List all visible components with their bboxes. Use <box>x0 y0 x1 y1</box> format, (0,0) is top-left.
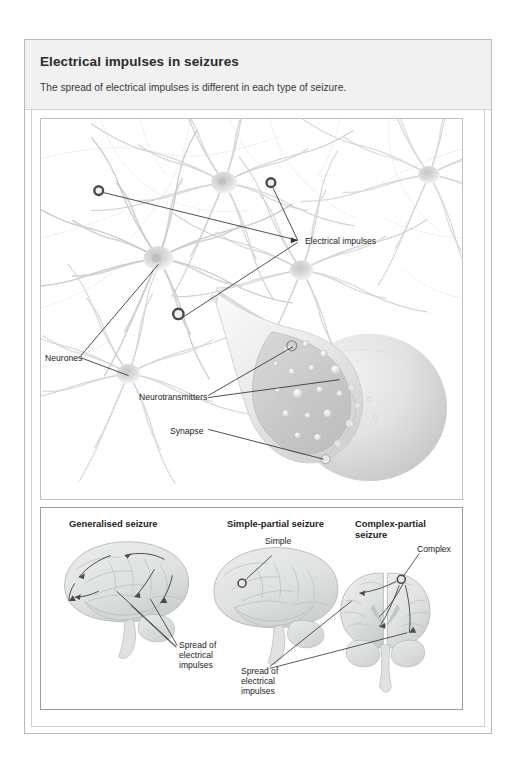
page-root: Electrical impulses in seizures The spre… <box>0 0 516 779</box>
label-simple: Simple <box>265 536 291 546</box>
label-spread-right: Spread of electrical impulses <box>241 666 278 696</box>
neuron-illustration-frame: Electrical impulses Neurones Neurotransm… <box>40 118 463 500</box>
panel-heading-generalised: Generalised seizure <box>69 518 158 529</box>
label-synapse: Synapse <box>170 426 203 436</box>
figure-header: Electrical impulses in seizures The spre… <box>25 40 491 110</box>
label-neurones: Neurones <box>45 353 82 363</box>
panel-heading-complex-partial: Complex-partial seizure <box>355 518 426 541</box>
neuron-synapse-illustration <box>41 119 462 499</box>
label-neurotransmitters: Neurotransmitters <box>139 392 207 402</box>
figure-card: Electrical impulses in seizures The spre… <box>24 39 492 734</box>
label-spread-left: Spread of electrical impulses <box>179 640 216 670</box>
panel-heading-simple-partial: Simple-partial seizure <box>227 518 324 529</box>
seizure-types-frame: Generalised seizure Simple-partial seizu… <box>40 507 463 710</box>
page-title: Electrical impulses in seizures <box>40 54 239 69</box>
label-complex: Complex <box>417 544 451 554</box>
label-electrical-impulses: Electrical impulses <box>305 236 376 246</box>
page-subtitle: The spread of electrical impulses is dif… <box>40 82 346 93</box>
